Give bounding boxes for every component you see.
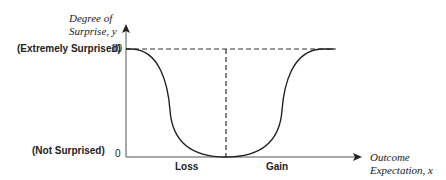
label-not-surprised: (Not Surprised) bbox=[32, 145, 105, 156]
x-axis-title-line2: Expectation, x bbox=[370, 164, 433, 177]
label-extremely-surprised: (Extremely Surprised) bbox=[17, 43, 121, 54]
tick-0: 0 bbox=[115, 148, 121, 159]
label-gain: Gain bbox=[266, 161, 288, 172]
y-axis-title-line1: Degree of bbox=[69, 12, 117, 25]
y-axis-title: Degree of Surprise, y bbox=[69, 12, 117, 38]
label-loss: Loss bbox=[175, 161, 198, 172]
x-axis-title-line1: Outcome bbox=[370, 151, 433, 164]
x-axis-title: Outcome Expectation, x bbox=[370, 151, 433, 177]
surprise-curve bbox=[126, 49, 334, 157]
y-axis-title-line2: Surprise, y bbox=[69, 25, 117, 38]
tick-10: 10 bbox=[111, 43, 122, 54]
